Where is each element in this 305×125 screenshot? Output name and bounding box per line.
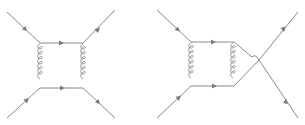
gluon-left (38, 44, 43, 79)
arrow-icon (60, 86, 65, 91)
fermion-incoming-bottom-left (7, 88, 40, 118)
box-diagram (7, 10, 115, 118)
fermion-crossing-from-top (234, 42, 259, 60)
gluon-right (81, 44, 86, 79)
fermion-outgoing-top-right (83, 10, 115, 43)
feynman-diagrams-canvas (0, 0, 305, 125)
fermion-incoming-bottom-left (157, 86, 191, 118)
fermion-outgoing-bottom-right (259, 60, 298, 118)
fermion-outgoing-top-right (259, 12, 298, 60)
fermion-incoming-top-left (157, 10, 191, 42)
arrow-icon (281, 27, 287, 33)
gluon-right (231, 43, 236, 78)
arrow-icon (59, 41, 64, 46)
arrow-icon (212, 84, 217, 89)
fermion-incoming-top-left (7, 12, 40, 43)
gluon-left (189, 43, 194, 78)
arrow-icon (211, 40, 216, 45)
crossed-box-diagram (157, 10, 298, 118)
fermion-crossing-from-bottom (234, 60, 259, 86)
